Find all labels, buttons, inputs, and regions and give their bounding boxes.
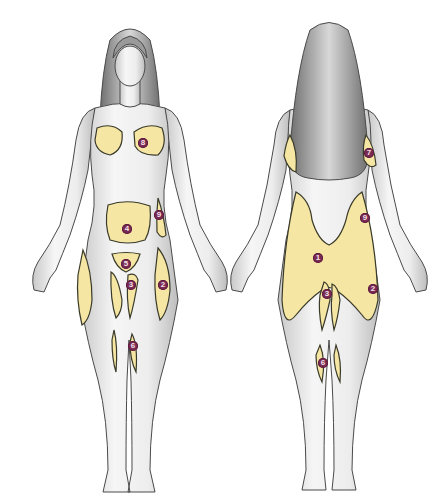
- marker-front-2: 2: [158, 280, 168, 290]
- back-left-arm: [231, 110, 290, 292]
- marker-back-6: 6: [318, 358, 328, 368]
- marker-front-3: 3: [126, 280, 136, 290]
- front-face: [115, 46, 145, 86]
- marker-back-7: 7: [364, 148, 374, 158]
- marker-front-4: 4: [122, 224, 132, 234]
- marker-back-1: 1: [313, 253, 323, 263]
- back-right-arm: [368, 110, 427, 292]
- marker-back-2: 2: [368, 284, 378, 294]
- zone-front-abdomen: [106, 202, 150, 243]
- back-hair: [290, 23, 368, 181]
- marker-back-3: 3: [322, 289, 332, 299]
- marker-front-6: 6: [128, 341, 138, 351]
- marker-front-5: 5: [121, 259, 131, 269]
- body-diagram: [0, 0, 447, 504]
- marker-front-9: 9: [154, 210, 164, 220]
- front-right-arm: [165, 108, 227, 292]
- marker-front-8: 8: [138, 138, 148, 148]
- marker-back-9: 9: [360, 213, 370, 223]
